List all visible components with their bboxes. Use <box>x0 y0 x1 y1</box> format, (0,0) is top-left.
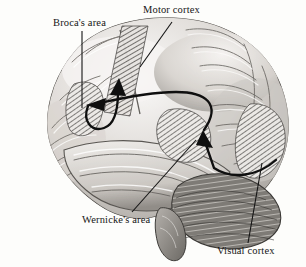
brain-diagram-figure: Broca's area Motor cortex Wernicke's are… <box>0 0 306 267</box>
brain-illustration <box>0 0 306 267</box>
label-wernickes-area: Wernicke's area <box>82 214 150 225</box>
label-motor-cortex: Motor cortex <box>143 4 200 15</box>
label-brocas-area: Broca's area <box>53 17 106 28</box>
label-visual-cortex: Visual cortex <box>217 245 275 256</box>
